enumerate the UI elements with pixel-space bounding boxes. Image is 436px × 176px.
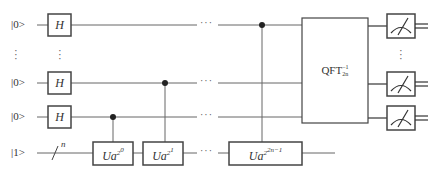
control-dot-ualast [259,22,265,28]
measurement-meter-1 [387,72,415,96]
vertical-ellipsis-meters: ··· [399,48,403,60]
ellipsis-q2: ··· [200,109,213,120]
control-dot-ua0 [110,114,116,120]
hadamard-label-q1: H [48,76,71,91]
ellipsis-q1: ··· [200,75,213,86]
qft-base: QFT [321,64,342,76]
hadamard-label-q2: H [48,110,71,125]
measurement-meter-2 [387,106,415,130]
ua1-base: Ua [152,149,167,163]
ualast-exp2: 2n−1 [267,146,282,154]
qubit-label-q2: |0> [11,110,25,122]
ua-gate-1-label: Ua21 [143,146,183,164]
bus-width-label: n [61,139,66,149]
ua-gate-0-label: Ua20 [93,146,133,164]
ua0-base: Ua [102,149,117,163]
ua0-exp2: 0 [120,146,124,154]
qubit-label-q0: |0> [11,18,25,30]
qubit-label-target: |1> [11,146,25,158]
ellipsis-target: ··· [200,145,213,156]
qft-sub: 2n [342,71,348,77]
qft-label: QFT−12n [302,64,368,78]
ua-gate-last-label: Ua22n−1 [229,146,302,164]
measurement-meter-0 [387,14,415,38]
qft-sup: −1 [342,64,348,70]
vertical-ellipsis-hgates: ··· [58,48,62,60]
hadamard-label-q0: H [48,18,71,33]
ua1-exp2: 1 [170,146,174,154]
vertical-ellipsis-labels: ··· [14,48,18,60]
ualast-base: Ua [249,149,264,163]
control-dot-ua1 [162,80,168,86]
ellipsis-q0: ··· [200,17,213,28]
qubit-label-q1: |0> [11,76,25,88]
